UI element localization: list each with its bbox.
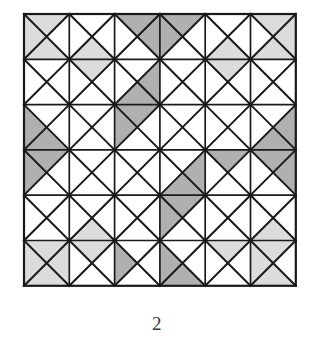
triangle-r1-c4-n <box>205 59 250 82</box>
triangle-r0-c4-s <box>205 37 250 60</box>
figure-caption: 2 <box>0 311 314 337</box>
triangle-r1-c1-n <box>69 59 114 82</box>
triangle-r3-c4-n <box>205 150 250 173</box>
triangle-r5-c1-n <box>69 241 114 264</box>
triangle-r5-c4-n <box>205 241 250 264</box>
triangle-r0-c1-s <box>69 37 114 60</box>
figure-root: 2 <box>0 0 314 349</box>
quilt-pattern-svg <box>0 0 314 310</box>
triangle-r5-c2-w <box>115 241 138 286</box>
triangle-r4-c1-s <box>69 218 114 241</box>
triangle-r4-c5-s <box>251 218 296 241</box>
